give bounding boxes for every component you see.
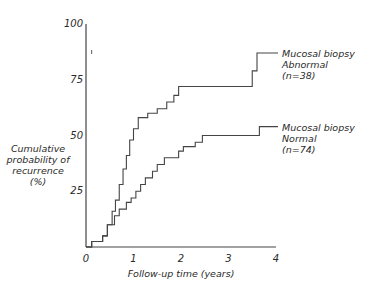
y-axis-label-line: Cumulative: [11, 143, 65, 154]
x-tick-label: 4: [273, 253, 279, 264]
y-axis-label: Cumulativeprobability ofrecurrence(%): [5, 143, 71, 187]
x-axis-label: Follow-up time (years): [128, 268, 235, 279]
series-label-line: (n=38): [282, 70, 315, 81]
y-tick-label: 25: [70, 185, 83, 196]
y-axis-label-line: recurrence: [12, 165, 64, 176]
y-axis-label-line: (%): [30, 176, 46, 187]
y-tick-label: 100: [64, 18, 83, 29]
y-axis-label-line: probability of: [5, 154, 71, 165]
curves: [86, 53, 278, 247]
kaplan-meier-chart: 255075100 01234 Cumulativeprobability of…: [0, 0, 373, 290]
series-label-line: Abnormal: [281, 59, 328, 70]
series-labels: Mucosal biopsyAbnormal(n=38)Mucosal biop…: [281, 48, 355, 155]
series-label-line: Mucosal biopsy: [282, 122, 355, 133]
y-tick-labels: 255075100: [64, 18, 83, 196]
x-tick-labels: 01234: [83, 253, 279, 264]
step-curve-normal: [86, 127, 278, 247]
x-tick-label: 3: [225, 253, 231, 264]
y-tick-label: 75: [70, 74, 83, 85]
series-label-line: Mucosal biopsy: [282, 48, 355, 59]
x-tick-label: 1: [130, 253, 136, 264]
x-tick-label: 2: [178, 253, 184, 264]
x-tick-label: 0: [83, 253, 89, 264]
y-tick-label: 50: [70, 130, 83, 141]
series-label-line: (n=74): [282, 144, 315, 155]
series-label-line: Normal: [282, 133, 317, 144]
scan-artifact-mark: [91, 50, 92, 54]
